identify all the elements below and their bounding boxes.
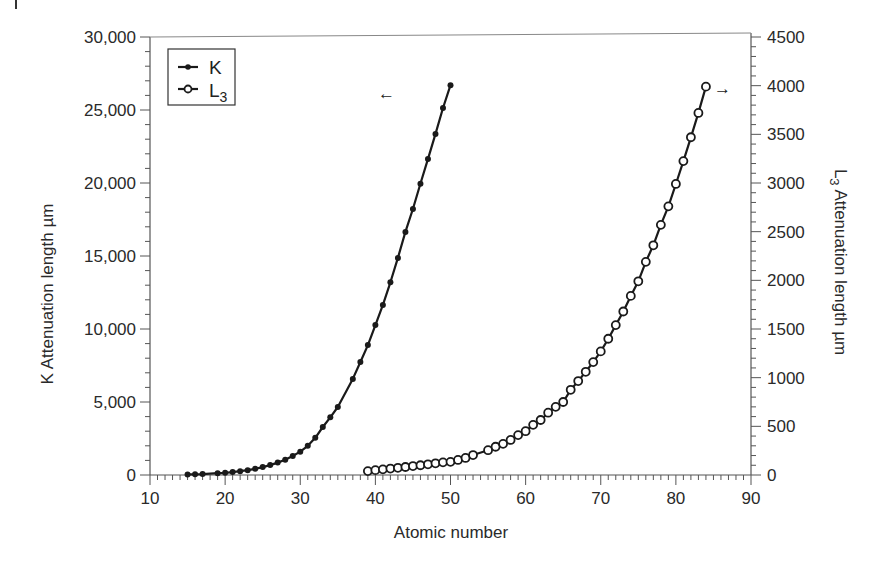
data-point [687, 133, 695, 141]
data-point [440, 105, 446, 111]
data-point [200, 471, 206, 477]
data-point [372, 322, 378, 328]
data-point [448, 82, 454, 88]
y-left-tick-label: 30,000 [84, 28, 136, 47]
data-point [597, 347, 605, 355]
data-point [694, 109, 702, 117]
data-point [222, 470, 228, 476]
data-point [380, 302, 386, 308]
series [185, 82, 710, 477]
data-point [290, 453, 296, 459]
y-right-tick-label: 3500 [767, 125, 805, 144]
data-point [417, 181, 423, 187]
data-point [245, 467, 251, 473]
data-point [619, 307, 627, 315]
series-l3 [364, 83, 710, 475]
right-axis-arrow-icon: → [714, 79, 731, 98]
y-right-tick-label: 2000 [767, 271, 805, 290]
data-point [567, 386, 575, 394]
data-point [305, 443, 311, 449]
x-tick-label: 50 [441, 489, 460, 508]
data-point [627, 292, 635, 300]
y-right-tick-label: 500 [767, 417, 795, 436]
left-axis-arrow-icon: ← [378, 84, 395, 103]
attenuation-chart: 10203040506070809005,00010,00015,00020,0… [0, 0, 893, 562]
y-right-tick-label: 0 [767, 466, 776, 485]
data-point [320, 424, 326, 430]
y-right-tick-label: 2500 [767, 223, 805, 242]
series-line [188, 85, 451, 474]
y-left-axis-title: K Attenuation length µm [38, 204, 57, 385]
top-frame-line [150, 33, 751, 37]
data-point [282, 457, 288, 463]
data-point [612, 321, 620, 329]
data-point [215, 470, 221, 476]
x-tick-label: 70 [591, 489, 610, 508]
x-tick-label: 10 [141, 489, 160, 508]
y-left-tick-label: 15,000 [84, 247, 136, 266]
open-circle-marker-icon [185, 86, 192, 93]
data-point [552, 403, 560, 411]
y-right-tick-label: 3000 [767, 174, 805, 193]
data-point [537, 416, 545, 424]
data-point [432, 131, 438, 137]
x-tick-label: 60 [516, 489, 535, 508]
x-tick-label: 80 [666, 489, 685, 508]
x-tick-label: 30 [291, 489, 310, 508]
x-tick-label: 20 [216, 489, 235, 508]
data-point [260, 464, 266, 470]
data-point [507, 436, 515, 444]
data-point [237, 468, 243, 474]
data-point [469, 451, 477, 459]
x-axis-title: Atomic number [394, 523, 509, 542]
data-point [267, 462, 273, 468]
data-point [252, 466, 258, 472]
data-point [327, 414, 333, 420]
y-right-tick-label: 4000 [767, 77, 805, 96]
data-point [642, 258, 650, 266]
data-point [604, 335, 612, 343]
y-right-tick-label: 1500 [767, 320, 805, 339]
data-point [679, 157, 687, 165]
data-point [672, 180, 680, 188]
data-point [582, 368, 590, 376]
data-point [425, 156, 431, 162]
data-point [529, 421, 537, 429]
data-point [185, 471, 191, 477]
data-point [297, 449, 303, 455]
data-point [574, 377, 582, 385]
data-point [192, 471, 198, 477]
data-point [410, 206, 416, 212]
y-left-tick-label: 20,000 [84, 174, 136, 193]
data-point [559, 398, 567, 406]
filled-circle-marker-icon [185, 64, 191, 70]
y-left-tick-label: 5,000 [93, 393, 136, 412]
data-point [335, 404, 341, 410]
series-line [368, 87, 706, 472]
y-left-tick-label: 10,000 [84, 320, 136, 339]
data-point [657, 221, 665, 229]
y-left-tick-label: 0 [127, 466, 136, 485]
data-point [395, 255, 401, 261]
x-tick-label: 40 [366, 489, 385, 508]
data-point [522, 427, 530, 435]
legend-label-l3-subscript: 3 [220, 89, 228, 105]
data-point [402, 229, 408, 235]
data-point [589, 358, 597, 366]
y-right-axis-title: L3 Attenuation length µm [827, 169, 850, 355]
data-point [230, 469, 236, 475]
legend-label-l3: L [209, 80, 220, 101]
data-point [702, 83, 710, 91]
legend-label-k: K [209, 57, 222, 78]
y-right-tick-label: 1000 [767, 369, 805, 388]
series-k [185, 82, 454, 477]
data-point [387, 279, 393, 285]
data-point [544, 409, 552, 417]
data-point [365, 342, 371, 348]
data-point [664, 202, 672, 210]
y-left-tick-label: 25,000 [84, 101, 136, 120]
data-point [350, 376, 356, 382]
y-right-tick-label: 4500 [767, 28, 805, 47]
data-point [634, 277, 642, 285]
data-point [649, 241, 657, 249]
